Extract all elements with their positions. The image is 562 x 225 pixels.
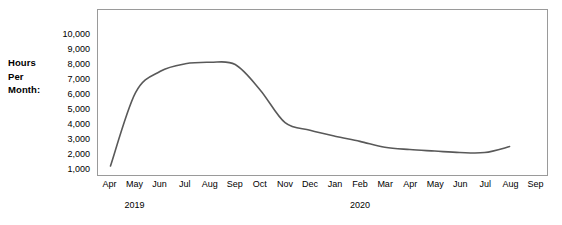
x-axis-group-label: 2019 <box>125 200 145 211</box>
y-axis-tick-labels: 10,0009,0008,0007,0006,0005,0004,0003,00… <box>46 28 90 178</box>
x-axis-tick-label: Apr <box>403 179 417 190</box>
x-axis-tick-label: Dec <box>302 179 318 190</box>
x-axis-tick-label: Feb <box>352 179 368 190</box>
x-axis-group-labels: 20192020 <box>97 200 548 214</box>
x-axis-tick-label: Jul <box>179 179 191 190</box>
x-axis-group-label: 2020 <box>350 200 370 211</box>
hours-per-month-line-chart: Hours Per Month: 10,0009,0008,0007,0006,… <box>0 0 562 225</box>
x-axis-tick-label: Jun <box>453 179 468 190</box>
y-axis-tick-label: 2,000 <box>46 150 90 159</box>
x-axis-tick-label: Mar <box>377 179 393 190</box>
plot-svg <box>98 10 547 175</box>
y-axis-tick-label: 8,000 <box>46 60 90 69</box>
x-axis-tick-labels: AprMayJunJulAugSepOctNovDecJanFebMarAprM… <box>97 179 548 193</box>
plot-area <box>97 9 548 176</box>
x-axis-tick-label: Sep <box>227 179 243 190</box>
x-axis-tick-label: Nov <box>277 179 293 190</box>
x-axis-tick-label: Jun <box>152 179 167 190</box>
x-axis-tick-label: Oct <box>253 179 267 190</box>
y-axis-tick-label: 6,000 <box>46 90 90 99</box>
x-axis-tick-label: Aug <box>502 179 518 190</box>
x-axis-tick-label: Jul <box>480 179 492 190</box>
y-axis-tick-label: 5,000 <box>46 105 90 114</box>
x-axis-tick-label: Aug <box>202 179 218 190</box>
y-axis-tick-label: 7,000 <box>46 75 90 84</box>
y-axis-tick-label: 1,000 <box>46 165 90 174</box>
x-axis-tick-label: Sep <box>527 179 543 190</box>
x-axis-tick-label: Jan <box>328 179 343 190</box>
series-line-hours-per-month <box>110 62 509 166</box>
x-axis-tick-label: Apr <box>103 179 117 190</box>
y-axis-tick-label: 4,000 <box>46 120 90 129</box>
y-axis-tick-label: 9,000 <box>46 45 90 54</box>
y-axis-tick-label: 10,000 <box>46 30 90 39</box>
y-axis-tick-label: 3,000 <box>46 135 90 144</box>
x-axis-tick-label: May <box>427 179 444 190</box>
x-axis-tick-label: May <box>126 179 143 190</box>
